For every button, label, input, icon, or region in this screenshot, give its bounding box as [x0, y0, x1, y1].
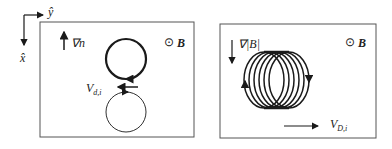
upper-orbit [106, 39, 146, 79]
left-field-label: B [177, 37, 185, 49]
lower-orbit [106, 92, 146, 132]
left-field-symbol: ⊙ [164, 36, 174, 48]
gradient-drift-orbits [244, 52, 309, 108]
right-drift-sub: D,i [337, 124, 347, 133]
right-field-symbol: ⊙ [345, 36, 355, 48]
y-axis-label: ŷ [48, 6, 53, 18]
left-drift-label: Vd,i [86, 82, 102, 97]
right-gradient-label: ∇|B| [238, 38, 260, 50]
right-drift-label: VD,i [330, 118, 347, 133]
right-field-label: B [358, 37, 366, 49]
left-gradient-label: ∇n [71, 37, 85, 49]
x-axis-label: x̂ [20, 52, 25, 64]
left-drift-sub: d,i [93, 88, 101, 97]
